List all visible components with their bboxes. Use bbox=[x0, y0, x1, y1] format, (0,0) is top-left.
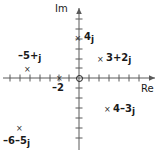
origin-circle-marker bbox=[76, 75, 83, 82]
argand-diagram-figure: Im Re × 4j × 3+2j × 4–3j × –5+j × –6–5j … bbox=[0, 0, 162, 154]
real-axis-label: Re bbox=[141, 84, 154, 94]
point-label-minus2: –2 bbox=[52, 83, 64, 93]
point-marker-minus5-plus-j: × bbox=[24, 66, 31, 74]
point-4m3j-imag: –3 bbox=[120, 103, 132, 114]
imaginary-axis-label: Im bbox=[55, 4, 68, 14]
point-m6m5j-imag-unit: j bbox=[27, 138, 30, 148]
point-m5pj-real: –5 bbox=[18, 50, 30, 61]
point-label-3-plus-2j: 3+2j bbox=[106, 53, 131, 63]
point-marker-minus6-minus-5j: × bbox=[16, 125, 23, 133]
point-label-minus5-plus-j: –5+j bbox=[18, 51, 41, 61]
point-4j-imag-unit: j bbox=[91, 34, 94, 44]
point-3p2j-imag: +2 bbox=[113, 52, 128, 63]
point-3p2j-imag-unit: j bbox=[128, 55, 131, 65]
point-marker-4j: × bbox=[75, 35, 82, 43]
point-marker-3-plus-2j: × bbox=[97, 56, 104, 64]
point-label-minus6-minus-5j: –6–5j bbox=[3, 136, 30, 146]
point-4m3j-real: 4 bbox=[113, 103, 120, 114]
point-m5pj-imag-unit: j bbox=[38, 53, 41, 63]
point-4m3j-imag-unit: j bbox=[132, 106, 135, 116]
point-m6m5j-real: –6 bbox=[3, 135, 15, 146]
point-m6m5j-imag: –5 bbox=[15, 135, 27, 146]
point-marker-4-minus-3j: × bbox=[104, 106, 111, 114]
point-label-4-minus-3j: 4–3j bbox=[113, 104, 135, 114]
point-label-4j: 4j bbox=[84, 32, 94, 42]
point-4j-real: 4 bbox=[84, 31, 91, 42]
point-3p2j-real: 3 bbox=[106, 52, 113, 63]
